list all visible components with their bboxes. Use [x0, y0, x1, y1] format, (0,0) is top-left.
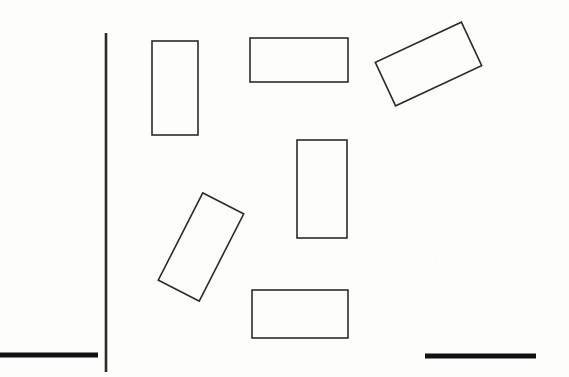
shape-rect-tall-left: upright tall rectangle, upper left	[152, 41, 198, 135]
figure-drawing: Scanned line drawing of rectangles with …	[0, 0, 569, 377]
figure-canvas: Scanned line drawing of rectangles with …	[0, 0, 569, 377]
rule-layer: vertical rule near left edgeheavy horizo…	[0, 33, 536, 372]
rectangle-layer: upright tall rectangle, upper leftuprigh…	[152, 22, 482, 338]
shape-rect-tall-middle: upright tall rectangle, center	[297, 140, 347, 238]
shape-rect-wide-top: upright wide rectangle, top middle	[250, 38, 348, 82]
shape-rect-tilted-middle-left: tilted tall rectangle, lower left of cen…	[158, 193, 243, 301]
shape-rect-wide-bottom: upright wide rectangle, bottom middle	[252, 290, 348, 338]
shape-rect-tilted-top-right: tilted wide rectangle, upper right	[375, 22, 481, 106]
